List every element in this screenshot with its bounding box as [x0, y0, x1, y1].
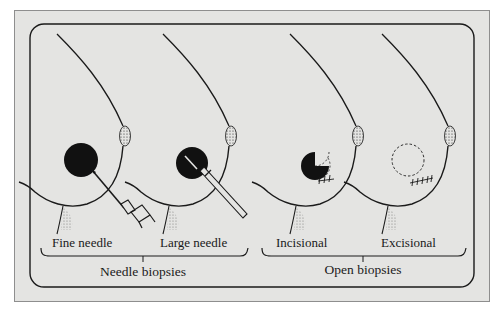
label-excisional: Excisional [381, 235, 436, 250]
sutures [410, 175, 433, 186]
incisional-illustration [252, 34, 364, 234]
label-incisional: Incisional [276, 235, 328, 250]
excised-area [392, 144, 424, 176]
label-large-needle: Large needle [160, 235, 227, 250]
group-open-biopsies: Open biopsies [325, 262, 402, 277]
large-needle-illustration [125, 34, 247, 234]
group-needle-biopsies: Needle biopsies [100, 264, 186, 279]
label-fine-needle: Fine needle [52, 235, 113, 250]
biopsy-diagram: Fine needle Large needle Incisional Exci… [0, 0, 504, 314]
fine-needle-illustration [19, 34, 155, 234]
